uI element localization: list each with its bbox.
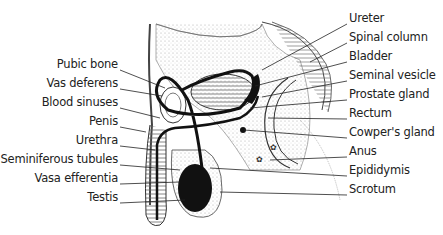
label-seminiferous-tubules: Seminiferous tubules [1,153,118,166]
label-anus: Anus [349,145,377,158]
label-prostate-gland: Prostate gland [349,88,429,101]
label-blood-sinuses: Blood sinuses [42,96,118,109]
label-seminal-vesicle: Seminal vesicle [349,69,436,82]
svg-text:✿: ✿ [270,143,277,152]
anatomy-diagram: ✿ ✿ Pubic bone Vas deferens [0,0,443,235]
label-pubic-bone: Pubic bone [57,58,118,71]
bladder-shape [191,74,255,110]
svg-text:✿: ✿ [256,155,263,164]
label-scrotum: Scrotum [349,183,396,196]
label-testis: Testis [87,191,118,204]
label-epididymis: Epididymis [349,164,410,177]
label-vasa-efferentia: Vasa efferentia [34,172,118,185]
label-penis: Penis [89,115,118,128]
label-urethra: Urethra [76,134,118,147]
label-rectum: Rectum [349,107,392,120]
label-cowpers-gland: Cowper's gland [349,126,435,139]
label-vas-deferens: Vas deferens [46,77,118,90]
label-spinal-column: Spinal column [349,31,428,44]
testis-shape [178,164,212,212]
label-bladder: Bladder [349,50,392,63]
label-ureter: Ureter [349,12,384,25]
